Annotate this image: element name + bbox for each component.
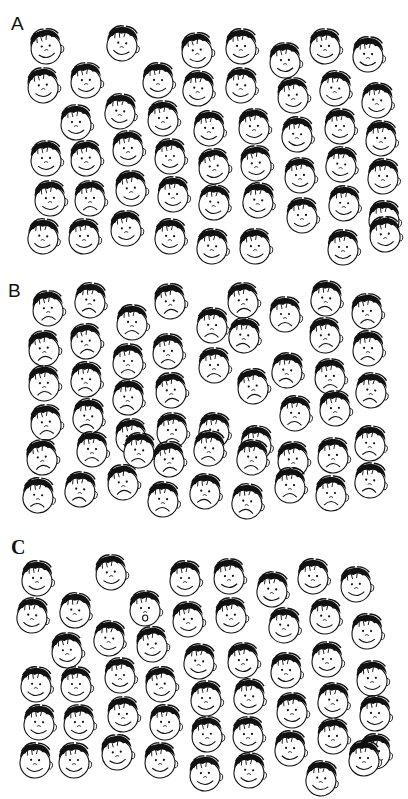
crowd-face-happy xyxy=(301,760,341,799)
crowd-face-happy xyxy=(277,116,317,156)
face-icon xyxy=(110,169,153,212)
crowd-face-happy xyxy=(89,620,129,660)
face-icon xyxy=(64,138,107,181)
crowd-face-happy xyxy=(280,157,320,197)
crowd-face-sad xyxy=(24,365,64,405)
face-icon xyxy=(150,138,190,178)
face-icon xyxy=(347,329,388,370)
crowd-face-happy xyxy=(102,25,142,65)
crowd-face-happy xyxy=(221,28,261,68)
crowd-face-happy xyxy=(106,210,146,250)
face-icon xyxy=(102,695,144,737)
crowd-face-sad xyxy=(306,280,346,320)
face-icon xyxy=(265,651,306,692)
crowd-face-sad xyxy=(60,471,100,511)
face-icon xyxy=(95,732,139,776)
face-icon xyxy=(20,437,64,481)
crowd-face-happy xyxy=(26,140,66,180)
crowd-face-happy xyxy=(179,643,219,683)
face-icon xyxy=(21,65,64,108)
crowd-face-happy xyxy=(15,742,55,782)
crowd-face-happy xyxy=(228,716,268,756)
face-icon xyxy=(98,91,142,135)
face-icon xyxy=(346,292,388,334)
crowd-face-sad xyxy=(22,439,62,479)
face-icon xyxy=(21,216,65,260)
face-icon xyxy=(299,758,343,799)
face-icon xyxy=(29,179,71,221)
crowd-face-sad xyxy=(28,290,68,330)
face-icon xyxy=(87,618,132,663)
face-icon xyxy=(194,347,234,387)
face-icon xyxy=(363,214,406,257)
crowd-face-happy xyxy=(192,228,232,268)
crowd-face-happy xyxy=(138,62,178,102)
crowd-face-sad xyxy=(351,372,391,412)
face-icon xyxy=(282,197,322,237)
crowd-face-happy xyxy=(315,70,355,110)
panel-label-a: A xyxy=(11,14,24,33)
face-icon xyxy=(305,28,345,68)
crowd-face-happy xyxy=(264,607,304,647)
crowd-face-happy xyxy=(97,734,137,774)
crowd-face-happy xyxy=(26,28,66,68)
face-icon xyxy=(148,281,192,325)
crowd-face-sad xyxy=(265,296,305,336)
face-icon xyxy=(167,600,209,642)
crowd-face-sad xyxy=(315,390,355,430)
crowd-face-happy xyxy=(111,170,151,210)
crowd-face-sad xyxy=(143,481,183,521)
crowd-face-happy xyxy=(344,740,384,780)
face-icon xyxy=(68,280,112,324)
crowd-face-sad xyxy=(70,282,110,322)
face-icon xyxy=(280,157,321,198)
face-icon xyxy=(228,751,270,793)
crowd-face-happy xyxy=(221,67,261,107)
face-icon xyxy=(348,460,392,504)
face-icon xyxy=(304,597,347,640)
crowd-face-happy xyxy=(177,32,217,72)
crowd-face-happy xyxy=(19,704,59,744)
face-icon xyxy=(106,377,150,421)
crowd-face-happy xyxy=(313,682,353,722)
face-icon xyxy=(64,321,108,365)
face-icon xyxy=(59,704,100,745)
face-icon xyxy=(112,304,153,345)
crowd-face-sad xyxy=(350,462,390,502)
face-icon xyxy=(24,26,69,71)
face-icon xyxy=(270,467,311,508)
face-icon xyxy=(15,665,57,707)
crowd-face-sad xyxy=(148,333,188,373)
face-icon xyxy=(183,471,226,514)
crowd-face-happy xyxy=(320,108,360,148)
crowd-face-happy xyxy=(307,641,347,681)
crowd-face-happy xyxy=(252,571,292,611)
crowd-face-sad xyxy=(275,395,315,435)
crowd-face-happy xyxy=(23,218,63,258)
face-icon xyxy=(233,107,275,149)
face-icon xyxy=(186,715,228,757)
face-icon xyxy=(360,119,402,161)
face-icon xyxy=(355,695,396,736)
face-icon xyxy=(139,664,183,708)
crowd-face-sad xyxy=(108,379,148,419)
face-icon xyxy=(186,680,226,720)
crowd-face-happy xyxy=(150,138,190,178)
face-icon xyxy=(265,296,305,336)
face-icon xyxy=(234,227,276,269)
crowd-face-happy xyxy=(234,108,274,148)
crowd-face-happy xyxy=(100,657,140,697)
face-icon xyxy=(307,641,347,681)
crowd-face-sad xyxy=(66,323,106,363)
face-icon xyxy=(105,209,148,252)
crowd-face-happy xyxy=(293,558,333,598)
face-icon xyxy=(344,740,384,780)
crowd-face-happy xyxy=(150,218,190,258)
crowd-face-happy xyxy=(194,184,234,224)
face-icon xyxy=(17,476,60,519)
face-icon xyxy=(64,218,104,258)
face-icon xyxy=(188,429,231,472)
crowd-face-happy xyxy=(165,560,205,600)
face-icon xyxy=(225,481,269,525)
face-icon xyxy=(319,144,363,188)
